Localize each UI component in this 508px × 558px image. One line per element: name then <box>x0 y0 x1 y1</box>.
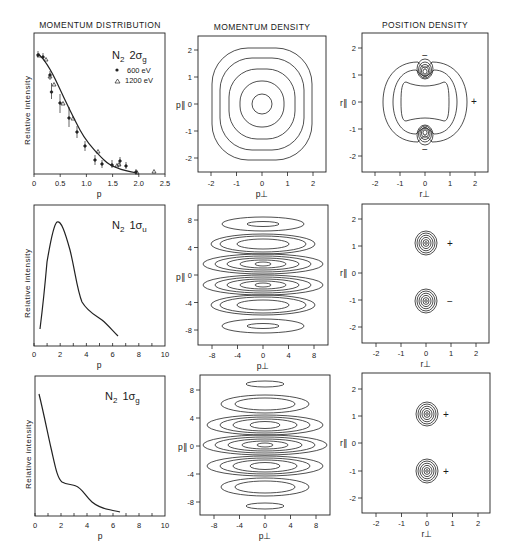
y-tick-label: 2 <box>352 44 356 53</box>
x-axis-label: r⊥ <box>421 359 432 369</box>
plot-frame <box>362 204 489 343</box>
y-tick-label: 0 <box>190 442 194 451</box>
plot-frame <box>362 373 490 513</box>
x-axis-ticks: -2 -1 0 1 2 <box>373 343 478 358</box>
x-tick-label: -1 <box>233 179 240 188</box>
y-tick-label: -8 <box>185 326 192 335</box>
x-tick-label: -4 <box>236 521 243 530</box>
sign-upper: + <box>443 409 449 420</box>
x-axis-ticks: 0 2 4 6 8 10 <box>32 343 169 359</box>
y-axis-label: p∥ <box>176 272 186 282</box>
x-tick-label: 1 <box>285 179 289 188</box>
x-axis-ticks: 0 0.5 1.0 1.5 2.0 2.5 <box>32 174 170 188</box>
x-tick-label: 2.5 <box>160 179 170 188</box>
plot-frame <box>35 376 165 516</box>
x-tick-label: 2 <box>474 349 478 358</box>
panel-momentum-density-1sg: -8 -4 0 4 8 8 4 0 -4 -8 p∥ p⊥ <box>178 375 330 541</box>
contours <box>203 381 327 509</box>
x-axis-ticks: -2 -1 0 1 2 <box>372 172 477 188</box>
x-tick-label: 2 <box>476 519 480 528</box>
x-tick-label: 10 <box>161 350 169 359</box>
panel-distribution-2sg: 0 0.5 1.0 1.5 2.0 2.5 p Relative intensi… <box>23 33 170 199</box>
y-tick-label: 0 <box>188 100 192 109</box>
column-title-momentum-distribution: MOMENTUM DISTRIBUTION <box>39 20 161 30</box>
x-tick-label: 1 <box>449 349 453 358</box>
y-tick-label: 8 <box>190 386 194 395</box>
y-axis-label: r∥ <box>340 268 348 278</box>
x-tick-label: 4 <box>85 521 89 530</box>
y-tick-label: -8 <box>187 498 194 507</box>
y-axis-label: Relative intensity <box>23 249 32 318</box>
sign-upper: + <box>447 238 453 249</box>
x-axis-ticks: -8 -4 0 4 8 <box>211 515 318 530</box>
x-axis-ticks: -2 -1 0 1 2 <box>373 513 480 528</box>
orbital-label: N21σg <box>105 390 140 405</box>
sign-top: − <box>422 50 428 61</box>
x-tick-label: 0 <box>424 349 428 358</box>
x-tick-label: 0 <box>423 179 427 188</box>
contours <box>415 231 437 313</box>
y-tick-label: 1 <box>188 73 192 82</box>
x-axis-ticks: -8 -4 0 4 8 <box>209 345 316 360</box>
x-axis-label: p <box>98 531 103 541</box>
distribution-curve <box>39 394 120 512</box>
y-tick-label: 1 <box>352 71 356 80</box>
x-tick-label: 2 <box>59 521 63 530</box>
x-tick-label: 4 <box>286 351 290 360</box>
orbital-label: N21σu <box>112 219 147 234</box>
sign-bottom: − <box>422 144 428 155</box>
x-axis-label: r⊥ <box>420 189 431 199</box>
y-tick-label: -2 <box>349 152 356 161</box>
x-tick-label: -1 <box>398 519 405 528</box>
theory-curve <box>38 54 137 173</box>
x-tick-label: 2 <box>311 179 315 188</box>
legend-label-1200ev: 1200 eV <box>125 76 153 85</box>
y-tick-label: -2 <box>349 323 356 332</box>
panel-position-density-2sg: -2 -1 0 1 2 2 1 0 -1 -2 r∥ r⊥ <box>340 33 488 199</box>
x-tick-label: -8 <box>211 521 218 530</box>
x-tick-label: -2 <box>372 179 379 188</box>
x-axis-label: p⊥ <box>259 531 272 541</box>
x-tick-label: 2 <box>58 350 62 359</box>
plot-frame <box>198 36 326 172</box>
y-axis-ticks: 2 1 0 -1 -2 <box>349 385 362 503</box>
y-tick-label: 0 <box>352 269 356 278</box>
orbital-figure: MOMENTUM DISTRIBUTION MOMENTUM DENSITY P… <box>0 0 508 558</box>
x-tick-label: 0 <box>260 179 264 188</box>
y-axis-ticks: 2 1 0 -1 -2 <box>349 215 362 332</box>
y-tick-label: 1 <box>352 412 356 421</box>
y-tick-label: 0 <box>352 98 356 107</box>
sign-lower: − <box>447 296 453 307</box>
x-axis-label: r⊥ <box>422 529 433 539</box>
x-axis-label: p <box>97 189 102 199</box>
y-tick-label: -1 <box>349 125 356 134</box>
x-axis-label: p <box>97 360 102 370</box>
y-tick-label: -2 <box>349 494 356 503</box>
x-tick-label: 8 <box>137 521 141 530</box>
x-tick-label: 4 <box>84 350 88 359</box>
panel-position-density-1sg: -2 -1 0 1 2 2 1 0 -1 -2 r∥ r⊥ <box>340 373 490 539</box>
triangle-marker-icon <box>115 79 120 83</box>
x-tick-label: 0 <box>32 350 36 359</box>
x-tick-label: 8 <box>314 521 318 530</box>
panel-distribution-1sg: 0 2 4 6 8 10 p Relative intensity N21σg <box>24 376 169 541</box>
orbital-label: N22σg <box>112 49 147 64</box>
y-axis-label: p∥ <box>176 100 186 110</box>
x-tick-label: -2 <box>373 349 380 358</box>
y-tick-label: 2 <box>352 215 356 224</box>
x-tick-label: -2 <box>373 519 380 528</box>
x-tick-label: -1 <box>397 179 404 188</box>
x-tick-label: 4 <box>288 521 292 530</box>
x-axis-ticks: -2 -1 0 1 2 <box>208 172 315 188</box>
x-tick-label: -2 <box>208 179 215 188</box>
sign-right: + <box>471 96 477 107</box>
x-tick-label: -4 <box>234 351 241 360</box>
distribution-curve <box>40 222 118 336</box>
x-axis-ticks: 0 2 4 6 8 10 <box>33 513 169 530</box>
x-tick-label: 1.0 <box>81 179 91 188</box>
legend: 600 eV 1200 eV <box>115 66 153 86</box>
x-tick-label: 10 <box>161 521 169 530</box>
y-tick-label: -1 <box>349 467 356 476</box>
y-tick-label: 0 <box>352 439 356 448</box>
x-tick-label: 0 <box>263 521 267 530</box>
